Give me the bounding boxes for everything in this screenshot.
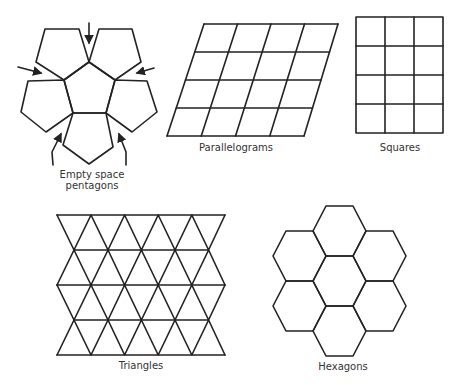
arrow-bottom-left-icon: [52, 134, 61, 165]
hexagon-top: [313, 206, 366, 256]
pentagon-left: [21, 80, 73, 132]
arrow-right-icon: [137, 68, 154, 73]
gap-arrows: [18, 23, 154, 165]
hexagon-upper-left: [273, 231, 326, 281]
hexagon-lower-right: [353, 281, 406, 331]
pentagon-figure: [21, 29, 157, 164]
hexagon-bottom: [313, 306, 366, 356]
arrow-left-icon: [18, 67, 41, 73]
arrow-bottom-right-icon: [119, 134, 126, 165]
pentagons-label-line1: Empty space: [60, 169, 125, 180]
pentagon-upper-left: [36, 29, 89, 80]
pentagons-label: Empty space pentagons: [60, 169, 125, 191]
triangle-grid: [57, 215, 225, 355]
pentagon-bottom: [63, 113, 113, 164]
pentagon-upper-right: [89, 29, 141, 80]
parallelograms-label: Parallelograms: [199, 142, 273, 153]
parallelogram-grid: [167, 24, 338, 136]
hexagon-cluster: [273, 206, 406, 356]
pentagons-label-line2: pentagons: [60, 180, 125, 191]
hexagon-upper-right: [353, 231, 406, 281]
hexagon-lower-left: [273, 281, 326, 331]
squares-label: Squares: [380, 142, 420, 153]
square-grid: [356, 17, 443, 133]
pentagon-right: [106, 80, 157, 132]
triangles-label: Triangles: [119, 360, 163, 371]
tessellation-diagram: [0, 0, 461, 385]
hexagons-label: Hexagons: [318, 361, 368, 372]
hexagon-center: [313, 256, 366, 306]
